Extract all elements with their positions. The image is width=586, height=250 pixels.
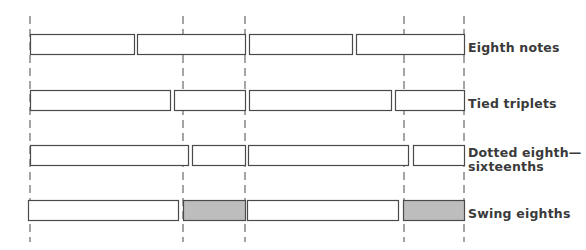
row-label-swing-eighths: Swing eighths — [468, 207, 571, 221]
note-bar-shaded — [404, 201, 465, 221]
note-bar — [414, 146, 465, 166]
row-label-line-1: Dotted eighth— — [468, 146, 581, 160]
note-bar — [31, 35, 135, 55]
note-bar — [396, 91, 465, 111]
row-label-eighth-notes: Eighth notes — [468, 41, 560, 55]
note-bar — [249, 146, 409, 166]
note-bar — [31, 91, 171, 111]
row-label-tied-triplets: Tied triplets — [468, 97, 557, 111]
note-bar — [357, 35, 465, 55]
row-label-line-2: sixteenths — [468, 160, 581, 174]
row-label-dotted-eighth-sixteenths: Dotted eighth— sixteenths — [468, 146, 581, 174]
note-bar — [29, 201, 179, 221]
note-bar — [138, 35, 246, 55]
note-bar — [175, 91, 246, 111]
note-bar — [248, 201, 399, 221]
note-bars — [29, 35, 465, 221]
note-bar — [193, 146, 246, 166]
note-bar — [31, 146, 189, 166]
note-bar-shaded — [184, 201, 246, 221]
note-bar — [250, 91, 392, 111]
note-bar — [250, 35, 353, 55]
